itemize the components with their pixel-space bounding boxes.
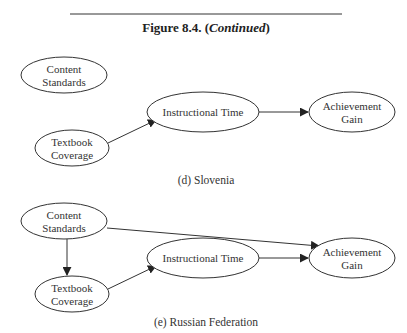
node-label: Gain (341, 259, 363, 271)
node-textbook-coverage: TextbookCoverage (35, 276, 109, 312)
node-label: Textbook (51, 282, 93, 294)
panel-slovenia: ContentStandardsTextbookCoverageInstruct… (21, 57, 395, 187)
figure-title: Figure 8.4. (Continued) (142, 20, 270, 35)
node-label: Coverage (51, 295, 93, 307)
node-instructional-time: Instructional Time (147, 238, 259, 278)
arrow-textbook-coverage-to-instructional-time (108, 120, 156, 143)
node-label: Instructional Time (163, 106, 244, 118)
node-label: Standards (42, 222, 85, 234)
node-instructional-time: Instructional Time (147, 92, 259, 132)
node-content-standards: ContentStandards (21, 203, 107, 239)
panel-caption: (d) Slovenia (178, 174, 235, 187)
node-content-standards: ContentStandards (21, 57, 107, 93)
node-achievement-gain: AchievementGain (309, 238, 395, 278)
node-label: Textbook (51, 136, 93, 148)
node-label: Gain (341, 113, 363, 125)
node-textbook-coverage: TextbookCoverage (35, 130, 109, 166)
node-label: Content (47, 209, 82, 221)
panel-russian-federation: ContentStandardsTextbookCoverageInstruct… (21, 203, 395, 329)
node-achievement-gain: AchievementGain (309, 92, 395, 132)
node-label: Instructional Time (163, 252, 244, 264)
node-label: Coverage (51, 149, 93, 161)
figure-canvas: Figure 8.4. (Continued) ContentStandards… (0, 0, 407, 333)
node-label: Content (47, 63, 82, 75)
node-label: Achievement (323, 100, 382, 112)
panel-caption: (e) Russian Federation (154, 316, 258, 329)
node-label: Standards (42, 76, 85, 88)
arrow-textbook-coverage-to-instructional-time (108, 266, 156, 289)
node-label: Achievement (323, 246, 382, 258)
